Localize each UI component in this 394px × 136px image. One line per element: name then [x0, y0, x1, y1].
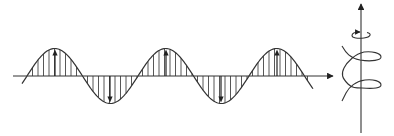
linear-wave: [13, 49, 333, 104]
polarization-diagram: [0, 0, 394, 136]
helix-diagram: [342, 4, 381, 133]
